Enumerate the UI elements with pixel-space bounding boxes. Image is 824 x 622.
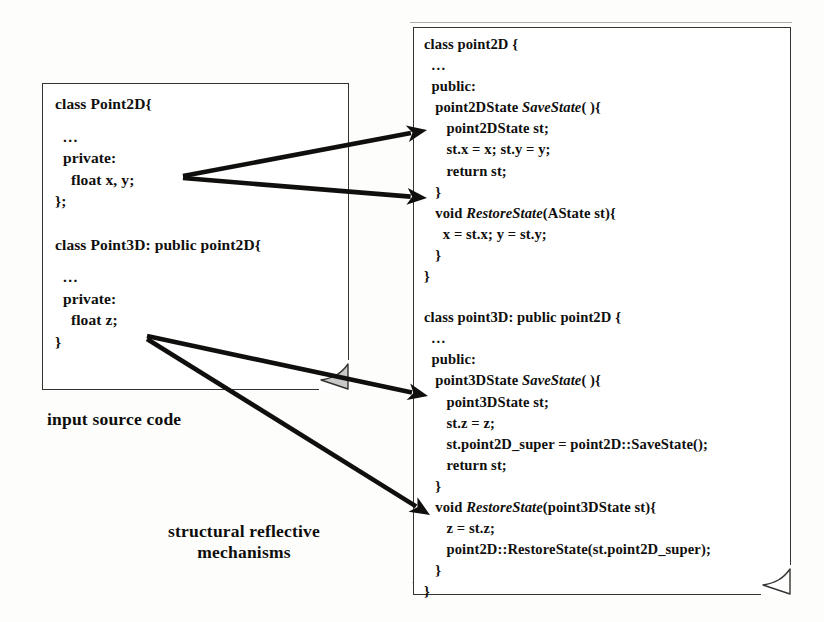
method-name: SaveState [522, 372, 581, 388]
input-code-line: ... [55, 266, 340, 288]
output-code-line: } [424, 581, 784, 602]
figure-root: class Point2D{ ... private: float x, y;}… [0, 0, 824, 622]
input-code-line: }; [55, 190, 340, 212]
input-code-line: float z; [55, 309, 340, 331]
output-code-line: ... [424, 328, 784, 349]
output-code-line: class point3D: public point2D { [424, 307, 784, 328]
output-code-line: } [424, 560, 784, 581]
caption-mechanisms-line-1: structural reflective [128, 521, 360, 542]
caption-structural-reflective-mechanisms: structural reflective mechanisms [128, 521, 360, 563]
output-code-block: class point2D { ... public: point2DState… [414, 28, 790, 602]
method-name: RestoreState [466, 499, 543, 515]
input-code-line [55, 212, 340, 223]
output-code-line: point2DState st; [424, 118, 784, 139]
output-code-line: point2D::RestoreState(st.point2D_super); [424, 539, 784, 560]
input-code-line: class Point2D{ [55, 93, 340, 115]
scan-artifact-top [410, 22, 792, 23]
caption-mechanisms-line-2: mechanisms [128, 542, 360, 563]
output-code-line: public: [424, 349, 784, 370]
output-code-line: return st; [424, 455, 784, 476]
output-code-line: st.z = z; [424, 413, 784, 434]
output-code-line: } [424, 245, 784, 266]
output-code-line: } [424, 182, 784, 203]
input-code-line: class Point3D: public point2D{ [55, 234, 340, 256]
reflective-mechanisms-panel: class point2D { ... public: point2DState… [413, 27, 791, 595]
method-name: RestoreState [466, 205, 543, 221]
input-code-line: private: [55, 288, 340, 310]
input-code-line: private: [55, 147, 340, 169]
input-code-line: float x, y; [55, 169, 340, 191]
output-code-line: public: [424, 76, 784, 97]
input-code-line: } [55, 331, 340, 353]
input-code-line: ... [55, 126, 340, 148]
output-code-line: } [424, 266, 784, 287]
output-code-line: x = st.x; y = st.y; [424, 224, 784, 245]
method-name: SaveState [522, 99, 581, 115]
output-code-line: point3DState st; [424, 392, 784, 413]
output-code-line: st.point2D_super = point2D::SaveState(); [424, 434, 784, 455]
output-code-line: ... [424, 55, 784, 76]
input-code-line [55, 255, 340, 266]
input-code-line [55, 223, 340, 234]
output-code-line [424, 287, 784, 297]
output-code-line: point2DState SaveState( ){ [424, 97, 784, 118]
output-code-line: st.x = x; st.y = y; [424, 139, 784, 160]
output-code-line: point3DState SaveState( ){ [424, 370, 784, 391]
output-code-line: } [424, 476, 784, 497]
input-source-code-panel: class Point2D{ ... private: float x, y;}… [42, 83, 349, 390]
output-code-line: void RestoreState(point3DState st){ [424, 497, 784, 518]
page-curl-input-panel [319, 360, 349, 390]
output-code-line [424, 297, 784, 307]
input-code-block: class Point2D{ ... private: float x, y;}… [43, 84, 348, 352]
output-code-line: void RestoreState(AState st){ [424, 203, 784, 224]
caption-input-source-code: input source code [47, 409, 181, 430]
output-code-line: return st; [424, 161, 784, 182]
output-code-line: z = st.z; [424, 518, 784, 539]
output-code-line: class point2D { [424, 34, 784, 55]
input-code-line [55, 115, 340, 126]
